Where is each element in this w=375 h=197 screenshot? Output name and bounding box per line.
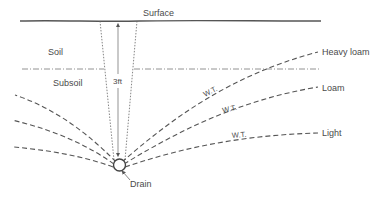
water-table-heavy-loam [15, 52, 318, 162]
soil-label: Soil [48, 47, 63, 57]
soil-type-loam: Loam [322, 83, 345, 93]
wt-label-heavy-loam: W.T. [202, 84, 219, 99]
soil-type-light: Light [322, 128, 342, 138]
wt-label-light: W.T. [231, 130, 246, 140]
surface-line [20, 21, 321, 22]
depth-label: 3ft [113, 77, 123, 86]
drain-label: Drain [130, 179, 152, 189]
drain-pipe-icon [114, 159, 126, 171]
drainage-water-table-diagram: Surface Soil Subsoil 3ft [0, 0, 375, 197]
water-table-light [14, 133, 318, 167]
surface-label: Surface [143, 8, 174, 18]
subsoil-label: Subsoil [53, 78, 83, 88]
drain-pointer [123, 172, 130, 180]
trench-lines [100, 21, 137, 160]
soil-type-heavy-loam: Heavy loam [322, 47, 370, 57]
wt-label-loam: W.T. [221, 103, 237, 115]
